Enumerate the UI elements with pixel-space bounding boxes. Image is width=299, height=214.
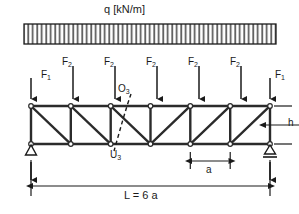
load-label-f1-right-sub: 1 [281,74,285,81]
load-label-f2-5: F2 [230,57,240,67]
load-label-f2-2: F2 [104,57,114,67]
member-label-upper-chord-sub: 3 [126,88,130,95]
load-label-f1-left: F1 [41,70,51,80]
joint-bottom-3 [148,142,153,147]
distributed-load-block [24,24,276,44]
support-pin-left [26,145,37,155]
truss-diagram: q [kN/m] F1 F2 F2 F2 F2 F2 F1 O3 U3 a L … [0,0,299,214]
member-label-upper-chord-o3: O3 [118,84,130,94]
load-label-f2-1-sub: 2 [68,61,72,68]
truss-members [31,106,270,144]
diagonal-2 [71,106,111,144]
joint-top-0 [29,104,34,109]
load-label-f2-3: F2 [146,57,156,67]
support-roller-right [263,145,277,157]
support-reactions [31,162,270,180]
diagonal-1 [31,106,71,144]
joint-bottom-4 [188,142,193,147]
distributed-load-label: q [kN/m] [104,4,145,15]
load-label-f2-1: F2 [62,57,72,67]
dimension-label-a: a [206,165,212,175]
diagonal-4 [151,106,191,144]
load-label-f2-3-sub: 2 [152,61,156,68]
joint-top-3 [148,104,153,109]
load-label-f2-4: F2 [188,57,198,67]
joint-top-4 [188,104,193,109]
load-label-f1-right: F1 [275,70,285,80]
member-label-lower-chord-u3: U3 [110,150,121,160]
dimension-label-span: L = 6 a [124,190,158,201]
load-label-f2-2-sub: 2 [110,61,114,68]
joint-bottom-1 [69,142,74,147]
diagonal-6 [230,106,270,144]
joint-bottom-2 [108,142,113,147]
load-label-f2-4-sub: 2 [194,61,198,68]
point-load-arrows [31,66,270,99]
dimension-label-h: h [288,118,294,128]
joint-top-2 [108,104,113,109]
joint-bottom-5 [228,142,233,147]
load-label-f2-5-sub: 2 [236,61,240,68]
joint-top-1 [69,104,74,109]
diagonal-5 [190,106,230,144]
truss-diagram-canvas [0,0,299,214]
joint-top-6 [268,104,273,109]
member-label-upper-chord-text: O [118,83,126,94]
member-label-lower-chord-sub: 3 [117,154,121,161]
load-label-f1-left-sub: 1 [47,74,51,81]
joint-top-5 [228,104,233,109]
diagonal-3 [111,106,151,144]
